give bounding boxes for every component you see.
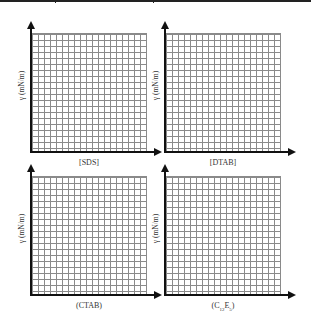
x-axis-label: (C12E5): [166, 301, 280, 312]
y-axis-label: γ (mN/m): [17, 204, 26, 254]
x-axis: [30, 151, 156, 153]
y-axis-arrow-icon: [161, 164, 169, 172]
x-axis: [164, 294, 290, 296]
top-border-line: [0, 0, 311, 2]
graph-grid: [166, 176, 281, 295]
y-axis-label: γ (mN/m): [151, 61, 160, 111]
y-axis-arrow-icon: [27, 164, 35, 172]
y-axis-label: γ (mN/m): [17, 61, 26, 111]
y-axis: [30, 170, 32, 295]
y-axis-label: γ (mN/m): [151, 204, 160, 254]
x-axis: [30, 294, 156, 296]
graph-grid: [32, 33, 147, 152]
blank-graph-c12e5: γ (mN/m) (C12E5): [160, 164, 310, 314]
y-axis-arrow-icon: [27, 21, 35, 29]
x-axis-arrow-icon: [288, 148, 296, 156]
y-axis: [164, 27, 166, 152]
graph-grid: [32, 176, 147, 295]
blank-graph-dtab: γ (mN/m) [DTAB]: [160, 21, 310, 171]
x-axis-label: (CTAB): [32, 301, 146, 310]
top-border-tick: [153, 0, 154, 3]
y-axis: [30, 27, 32, 152]
y-axis-arrow-icon: [161, 21, 169, 29]
x-axis-arrow-icon: [288, 291, 296, 299]
graph-grid: [166, 33, 281, 152]
x-axis: [164, 151, 290, 153]
top-border-tick: [55, 0, 56, 3]
y-axis: [164, 170, 166, 295]
